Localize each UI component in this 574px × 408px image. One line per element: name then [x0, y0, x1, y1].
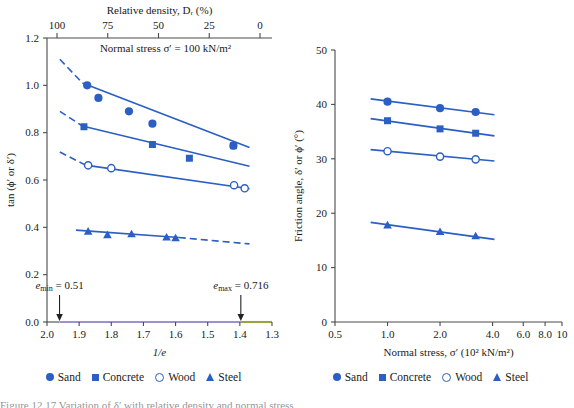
data-point-sand: [125, 107, 133, 115]
left-top-tick-label: 0: [257, 19, 263, 31]
data-point-wood: [241, 185, 248, 192]
legend-marker-filled-square-icon: [92, 374, 99, 381]
legend-item-concrete: Concrete: [92, 371, 145, 383]
left-x-tick-label: 1.6: [169, 328, 183, 340]
left-chart-panel: 0.00.20.40.60.81.01.22.01.91.81.71.61.51…: [0, 0, 287, 408]
left-y-tick-label: 1.0: [25, 79, 39, 91]
data-point-concrete: [472, 130, 479, 137]
data-point-sand: [148, 120, 156, 128]
legend-marker-filled-square-icon: [379, 374, 386, 381]
right-x-tick-label: 2.0: [433, 328, 447, 340]
left-x-tick-label: 1.7: [137, 328, 151, 340]
trend-line-sand: [82, 83, 249, 148]
data-point-concrete: [80, 123, 87, 130]
trend-line-concrete: [82, 126, 249, 166]
data-point-concrete: [384, 117, 391, 124]
legend-label: Steel: [505, 371, 528, 383]
left-chart-svg: 0.00.20.40.60.81.01.22.01.91.81.71.61.51…: [0, 0, 287, 368]
right-y-tick-label: 10: [316, 261, 328, 273]
legend-label: Wood: [455, 371, 482, 383]
data-point-wood: [472, 156, 479, 163]
legend-item-sand: Sand: [333, 371, 368, 383]
data-point-wood: [230, 182, 237, 189]
left-x-tick-label: 2.0: [40, 328, 54, 340]
left-x-tick-label: 1.8: [104, 328, 118, 340]
data-point-wood: [384, 148, 391, 155]
legend-item-steel: Steel: [206, 371, 241, 383]
left-y-tick-label: 0.4: [25, 221, 39, 233]
figure-root: 0.00.20.40.60.81.01.22.01.91.81.71.61.51…: [0, 0, 574, 408]
right-y-tick-label: 30: [316, 153, 328, 165]
legend-marker-open-circle-icon: [155, 373, 164, 382]
right-y-tick-label: 0: [322, 316, 328, 328]
right-x-axis-title: Normal stress, σ′ (10² kN/m²): [383, 346, 513, 359]
density-marker-label: emax = 0.716: [213, 279, 269, 293]
density-arrow-head: [238, 314, 245, 321]
left-x-tick-label: 1.9: [72, 328, 86, 340]
left-y-tick-label: 0.0: [25, 316, 39, 328]
data-point-sand: [83, 81, 91, 89]
left-y-axis-title: tan (ϕ′ or δ′): [4, 153, 17, 207]
trend-line-dashed-wood: [60, 152, 86, 165]
legend-item-sand: Sand: [46, 371, 81, 383]
left-chart-legend: SandConcreteWoodSteel: [0, 368, 287, 386]
left-x-tick-label: 1.5: [201, 328, 215, 340]
data-point-wood: [108, 165, 115, 172]
legend-label: Steel: [218, 371, 241, 383]
left-y-tick-label: 0.8: [25, 126, 39, 138]
left-annotation: Normal stress σ′ = 100 kN/m²: [100, 42, 232, 54]
figure-caption: Figure 12.17 Variation of δ′ with relati…: [0, 399, 574, 408]
right-chart-panel: 010203040500.51.02.04.06.08.010Normal st…: [287, 0, 574, 408]
left-top-tick-label: 25: [204, 19, 216, 31]
right-y-tick-label: 20: [316, 207, 328, 219]
right-y-tick-label: 40: [316, 98, 328, 110]
legend-label: Wood: [168, 371, 195, 383]
trend-line-dashed-concrete: [60, 111, 82, 126]
legend-label: Concrete: [103, 371, 145, 383]
right-x-tick-label: 1.0: [381, 328, 395, 340]
legend-marker-filled-triangle-icon: [493, 373, 501, 381]
legend-item-wood: Wood: [155, 371, 195, 383]
right-x-tick-label: 4.0: [486, 328, 500, 340]
right-x-tick-label: 8.0: [538, 328, 552, 340]
legend-label: Concrete: [390, 371, 432, 383]
right-y-axis-title: Friction angle, δ′ or ϕ′ (°): [292, 130, 305, 242]
right-chart-svg: 010203040500.51.02.04.06.08.010Normal st…: [287, 0, 574, 368]
trend-line-dashed-sand: [60, 59, 82, 83]
left-y-tick-label: 0.6: [25, 174, 39, 186]
left-top-axis-title: Relative density, Dᵣ (%): [107, 4, 213, 17]
data-point-concrete: [149, 141, 156, 148]
right-x-tick-label: 6.0: [516, 328, 530, 340]
data-point-sand: [436, 104, 444, 112]
data-point-sand: [383, 98, 391, 106]
legend-item-wood: Wood: [442, 371, 482, 383]
density-arrow-head: [56, 314, 63, 321]
legend-label: Sand: [58, 371, 81, 383]
legend-marker-open-circle-icon: [442, 373, 451, 382]
legend-marker-filled-triangle-icon: [206, 373, 214, 381]
right-chart-legend: SandConcreteWoodSteel: [287, 368, 574, 386]
left-top-tick-label: 100: [49, 19, 66, 31]
data-point-wood: [85, 162, 92, 169]
left-x-tick-label: 1.3: [265, 328, 279, 340]
data-point-sand: [94, 94, 102, 102]
left-x-tick-label: 1.4: [233, 328, 247, 340]
right-y-tick-label: 50: [316, 44, 328, 56]
right-x-tick-label: 0.5: [328, 328, 342, 340]
legend-marker-filled-circle-icon: [333, 373, 341, 381]
data-point-concrete: [230, 142, 237, 149]
left-top-tick-label: 50: [153, 19, 165, 31]
left-x-axis-title: 1/e: [153, 346, 167, 358]
data-point-concrete: [437, 125, 444, 132]
data-point-wood: [436, 153, 443, 160]
legend-marker-filled-circle-icon: [46, 373, 54, 381]
right-x-tick-label: 10: [557, 328, 569, 340]
legend-item-concrete: Concrete: [379, 371, 432, 383]
data-point-sand: [472, 108, 480, 116]
data-point-concrete: [186, 155, 193, 162]
left-y-tick-label: 1.2: [25, 32, 39, 44]
trend-line-dashed-steel: [179, 238, 250, 244]
density-marker-label: emin = 0.51: [35, 279, 83, 293]
left-top-tick-label: 75: [102, 19, 114, 31]
legend-label: Sand: [345, 371, 368, 383]
